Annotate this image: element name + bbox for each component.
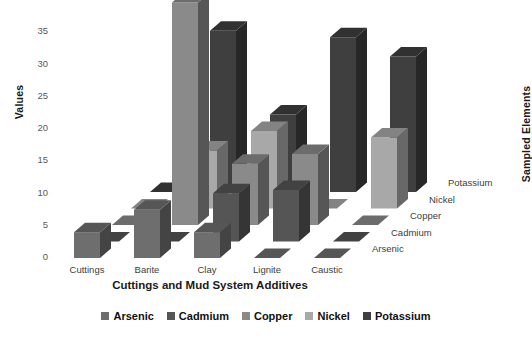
- legend-item-copper[interactable]: Copper: [242, 310, 293, 322]
- bar-copper-barite: [172, 0, 209, 225]
- bar-arsenic-cuttings: [74, 223, 111, 258]
- legend-swatch-nickel-icon: [305, 312, 313, 320]
- legend-label: Arsenic: [113, 310, 153, 322]
- bar-nickel-caustic: [371, 128, 408, 208]
- bar-arsenic-lignite: [254, 249, 291, 259]
- bar-cadmium-lignite: [273, 180, 310, 241]
- legend-swatch-potassium-icon: [363, 312, 371, 320]
- bar-copper-caustic: [352, 216, 389, 226]
- bar-cadmium-caustic: [333, 232, 370, 242]
- bar-chart-3d: Values Sampled Elements Cuttings and Mud…: [0, 0, 532, 343]
- legend-item-cadmium[interactable]: Cadmium: [167, 310, 229, 322]
- legend-item-potassium[interactable]: Potassium: [363, 310, 431, 322]
- legend-item-arsenic[interactable]: Arsenic: [101, 310, 153, 322]
- bar-arsenic-clay: [194, 223, 231, 258]
- legend-swatch-cadmium-icon: [167, 312, 175, 320]
- bar-potassium-lignite: [330, 28, 367, 192]
- legend-swatch-arsenic-icon: [101, 312, 109, 320]
- legend-item-nickel[interactable]: Nickel: [305, 310, 349, 322]
- legend-swatch-copper-icon: [242, 312, 250, 320]
- bar-arsenic-barite: [134, 200, 171, 258]
- legend: ArsenicCadmiumCopperNickelPotassium: [0, 310, 532, 322]
- bar-arsenic-caustic: [314, 249, 351, 259]
- legend-label: Copper: [254, 310, 293, 322]
- legend-label: Potassium: [375, 310, 431, 322]
- legend-label: Nickel: [317, 310, 349, 322]
- legend-label: Cadmium: [179, 310, 229, 322]
- bars-canvas: [0, 0, 532, 343]
